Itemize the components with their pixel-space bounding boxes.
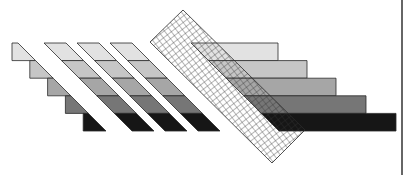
stripe-3-segment-3 <box>145 78 185 96</box>
figure-canvas <box>0 0 406 175</box>
stripe-2-segment-1 <box>77 43 117 61</box>
stripe-1-segment-1 <box>44 43 84 61</box>
staircase-step-1 <box>12 43 36 61</box>
stripe-1-segment-3 <box>79 78 119 96</box>
stripe-3-segment-2 <box>128 61 168 79</box>
stripe-2-segment-5 <box>147 113 187 131</box>
staircase-step-3 <box>48 78 71 96</box>
stripe-3-segment-4 <box>163 96 203 114</box>
stripe-1-segment-5 <box>114 113 154 131</box>
staircase-step-2 <box>30 61 53 79</box>
stripe-2-segment-2 <box>95 61 135 79</box>
stripe-1-segment-2 <box>62 61 102 79</box>
staircase-step-5 <box>83 113 106 131</box>
stripe-3-segment-5 <box>180 113 220 131</box>
diagram-svg <box>0 0 406 175</box>
stripe-1-segment-4 <box>97 96 137 114</box>
stripe-2-segment-4 <box>130 96 170 114</box>
stripe-2-segment-3 <box>112 78 152 96</box>
staircase-step-4 <box>65 96 88 114</box>
stripe-3-segment-1 <box>110 43 150 61</box>
